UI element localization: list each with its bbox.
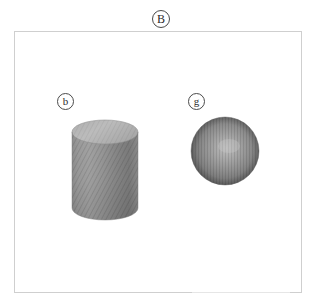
panel-label-badge: B — [152, 10, 170, 28]
panel-label-text: B — [157, 13, 165, 25]
figure-canvas: B — [0, 0, 316, 299]
cylinder-label-text: b — [63, 96, 69, 107]
sphere-label-text: g — [194, 96, 200, 107]
cylinder-label-badge: b — [57, 93, 74, 110]
sphere-label-badge: g — [188, 93, 205, 110]
plot-frame — [14, 31, 302, 293]
bottom-rule — [192, 292, 290, 293]
